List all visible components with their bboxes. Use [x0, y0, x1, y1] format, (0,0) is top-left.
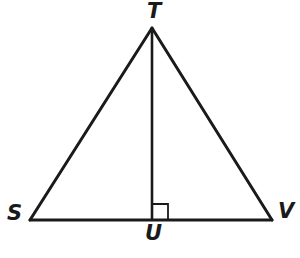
- triangle-diagram: [0, 0, 300, 258]
- vertex-label-v: V: [278, 201, 294, 222]
- vertex-label-t: T: [147, 1, 161, 22]
- segment-tv: [152, 28, 272, 220]
- geometry-figure: T S V U: [0, 0, 300, 258]
- right-angle-square-icon: [152, 204, 168, 220]
- segment-st: [30, 28, 152, 220]
- vertex-label-u: U: [145, 223, 162, 244]
- vertex-label-s: S: [7, 203, 22, 224]
